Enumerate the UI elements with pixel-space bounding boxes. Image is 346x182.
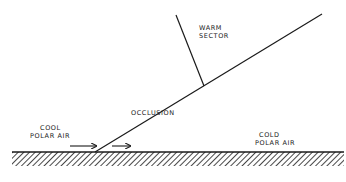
cold-polar-air-label-line2: Polar Air: [255, 140, 295, 148]
occlusion-label: Occlusion: [131, 110, 175, 118]
warm-sector-label-line2: Sector: [199, 33, 229, 41]
cool-polar-air-label: Cool Polar Air: [30, 125, 70, 140]
occlusion-label-text: Occlusion: [131, 110, 175, 118]
cold-polar-air-label: Cold Polar Air: [255, 132, 295, 147]
warm-sector-label: Warm Sector: [199, 25, 229, 40]
diagram-canvas: [0, 0, 346, 182]
occlusion-diagram: Warm Sector Occlusion Cool Polar Air Col…: [0, 0, 346, 182]
ground-hatching: [12, 152, 344, 166]
cool-polar-air-label-line2: Polar Air: [30, 133, 70, 141]
